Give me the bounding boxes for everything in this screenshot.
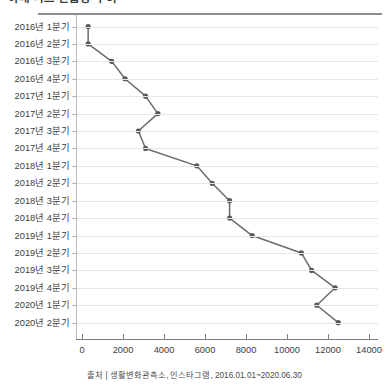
grid-line (76, 323, 378, 324)
grid-line (76, 61, 378, 62)
x-tick-mark (246, 334, 247, 339)
x-tick-mark (205, 334, 206, 339)
y-axis-label: 2016년 4분기 (2, 74, 70, 84)
grid-line (76, 166, 378, 167)
grid-line (76, 148, 378, 149)
x-axis-spine (76, 339, 378, 340)
y-axis-label: 2017년 3분기 (2, 126, 70, 136)
x-tick-mark (164, 334, 165, 339)
grid-line (76, 270, 378, 271)
y-axis-label: 2016년 3분기 (2, 56, 70, 66)
x-axis-tick-label: 14000 (344, 345, 389, 355)
y-axis-label: 2018년 3분기 (2, 196, 70, 206)
source-caption: 출처 | 생활변화관측소, 인스타그램, 2016.01.01~2020.06.… (0, 368, 389, 380)
y-axis-spine (76, 15, 77, 340)
grid-line (76, 114, 378, 115)
grid-line (76, 79, 378, 80)
y-axis-label: 2018년 2분기 (2, 178, 70, 188)
grid-line (76, 288, 378, 289)
y-axis-label: 2017년 4분기 (2, 143, 70, 153)
y-axis-label: 2016년 1분기 (2, 22, 70, 32)
y-axis-label: 2017년 1분기 (2, 91, 70, 101)
y-axis-label: 2020년 2분기 (2, 318, 70, 328)
y-axis-label: 2018년 1분기 (2, 161, 70, 171)
x-tick-mark (287, 334, 288, 339)
series-line (88, 27, 338, 323)
x-tick-mark (328, 334, 329, 339)
chart-container: 아내 리즈 언급량 추이 2016년 1분기2016년 2분기2016년 3분기… (0, 0, 389, 389)
y-axis-label: 2019년 2분기 (2, 248, 70, 258)
y-axis-label: 2019년 4분기 (2, 283, 70, 293)
y-axis-label: 2019년 3분기 (2, 265, 70, 275)
y-axis-label: 2019년 1분기 (2, 231, 70, 241)
grid-line (76, 201, 378, 202)
grid-line (76, 218, 378, 219)
grid-line (76, 44, 378, 45)
y-axis-label: 2016년 2분기 (2, 39, 70, 49)
x-tick-mark (123, 334, 124, 339)
y-axis-label: 2017년 2분기 (2, 109, 70, 119)
x-tick-mark (82, 334, 83, 339)
x-tick-mark (369, 334, 370, 339)
grid-line (76, 96, 378, 97)
grid-line (76, 253, 378, 254)
y-axis-label: 2018년 4분기 (2, 213, 70, 223)
grid-line (76, 305, 378, 306)
grid-line (76, 236, 378, 237)
grid-line (76, 131, 378, 132)
grid-line (76, 27, 378, 28)
y-axis-label: 2020년 1분기 (2, 300, 70, 310)
plot-area: 2016년 1분기2016년 2분기2016년 3분기2016년 4분기2017… (0, 0, 389, 389)
grid-line (76, 183, 378, 184)
